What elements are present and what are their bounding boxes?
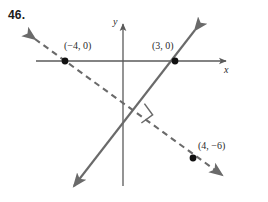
figure-page: 46. (−4, 0) (3, 0) (4, −6) x y <box>0 0 268 202</box>
y-axis-label: y <box>113 16 117 27</box>
coordinate-plane-figure <box>0 0 268 202</box>
point-x-intercept-solid <box>172 58 179 65</box>
point-on-dashed <box>190 155 197 162</box>
x-axis-label: x <box>224 64 228 75</box>
solid-line <box>74 30 195 186</box>
point-x-intercept-dashed <box>62 58 69 65</box>
point-label-minus4-0: (−4, 0) <box>64 40 91 51</box>
point-label-4-minus6: (4, −6) <box>198 140 225 151</box>
point-label-3-0: (3, 0) <box>152 40 174 51</box>
